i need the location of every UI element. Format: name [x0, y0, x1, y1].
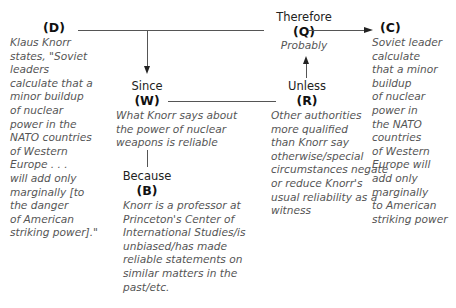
rebuttal-connector-line: [306, 62, 307, 78]
backing-keyword: Because: [112, 169, 182, 183]
warrant-label: (W): [127, 93, 167, 108]
arrow-right-icon: [364, 27, 373, 33]
data-to-qualifier-line: [78, 30, 264, 31]
warrant-to-rebuttal-line: [168, 101, 276, 102]
backing-connector-line: [147, 150, 148, 167]
backing-label: (B): [127, 183, 167, 198]
backing-text: Knorr is a professor at Princeton's Cent…: [123, 199, 263, 294]
arrow-up-icon: [303, 56, 309, 64]
qualifier-text: Probably: [266, 39, 342, 53]
warrant-keyword: Since: [117, 79, 177, 93]
rebuttal-text: Other authorities more qualified than Kn…: [271, 109, 391, 218]
qualifier-keyword: Therefore: [264, 10, 344, 24]
data-text: Klaus Knorr states, "Soviet leaders calc…: [10, 36, 110, 240]
warrant-connector-line: [147, 30, 148, 68]
data-label: (D): [34, 20, 74, 35]
qualifier-label: (Q): [284, 24, 324, 39]
warrant-text: What Knorr says about the power of nucle…: [116, 109, 256, 150]
qualifier-to-claim-line-ext: [308, 30, 366, 31]
claim-label: (C): [380, 20, 410, 35]
arrow-down-icon: [144, 66, 150, 74]
rebuttal-label: (R): [287, 93, 327, 108]
rebuttal-keyword: Unless: [272, 79, 342, 93]
